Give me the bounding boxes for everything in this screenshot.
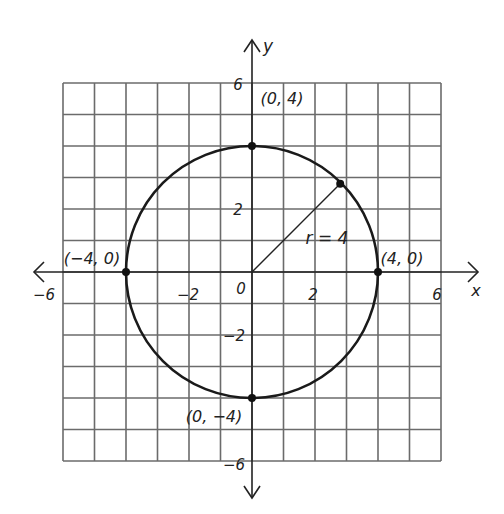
- x-tick-label: 6: [432, 286, 442, 304]
- point-label-bottom: (0, −4): [186, 407, 242, 426]
- x-tick-label: 2: [308, 286, 318, 304]
- point-bottom-dot: [248, 394, 256, 402]
- radius-label: r = 4: [306, 228, 349, 248]
- point-top-dot: [248, 142, 256, 150]
- x-tick-label: −6: [33, 286, 55, 304]
- coordinate-plane: (0, 4)(4, 0)(0, −4)(−4, 0)−6−22662−2−60x…: [0, 0, 504, 514]
- x-axis-label: x: [470, 281, 481, 300]
- y-axis-label: y: [262, 36, 274, 56]
- point-left-dot: [122, 268, 130, 276]
- y-tick-label: −6: [223, 456, 245, 474]
- y-tick-label: 6: [233, 76, 243, 94]
- radius-endpoint-dot: [336, 180, 344, 188]
- origin-label: 0: [236, 280, 246, 298]
- labels: (0, 4)(4, 0)(0, −4)(−4, 0)−6−22662−2−60x…: [33, 36, 481, 474]
- y-tick-label: −2: [223, 327, 245, 345]
- point-label-left: (−4, 0): [64, 249, 120, 268]
- y-tick-label: 2: [233, 201, 243, 219]
- point-right-dot: [374, 268, 382, 276]
- point-label-top: (0, 4): [260, 89, 303, 108]
- point-label-right: (4, 0): [380, 249, 423, 268]
- x-tick-label: −2: [177, 286, 199, 304]
